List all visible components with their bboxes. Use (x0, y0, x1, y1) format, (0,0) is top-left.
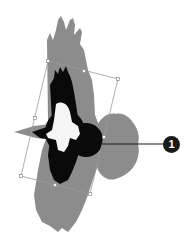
bird-illustration (0, 0, 191, 245)
handle-bottom-right[interactable] (89, 193, 92, 196)
handle-bottom-mid[interactable] (54, 184, 57, 187)
handle-top-right[interactable] (117, 78, 120, 81)
handle-top-mid[interactable] (83, 70, 86, 73)
handle-top-left[interactable] (47, 60, 50, 63)
handle-bottom-left[interactable] (20, 175, 23, 178)
handle-left-mid[interactable] (34, 117, 37, 120)
callout-badge: 1 (163, 136, 180, 153)
handle-right-mid[interactable] (103, 136, 106, 139)
